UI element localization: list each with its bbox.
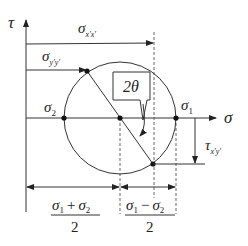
sigma-xx-label: σx'x' xyxy=(78,20,96,39)
svg-text:σ1−σ2: σ1−σ2 xyxy=(126,197,164,215)
svg-text:σ1+σ2: σ1+σ2 xyxy=(52,197,90,215)
svg-text:2: 2 xyxy=(71,219,79,235)
tau-xy-label: τx'y' xyxy=(205,137,221,156)
tau-axis-label: τ xyxy=(8,13,15,32)
center-formula: σ1+σ2 2 xyxy=(51,197,100,235)
mohr-circle-diagram: τ σ σx'x' σy'y' σ2 σ1 2θ τx'y' σ1+σ2 2 σ… xyxy=(0,0,248,246)
angle-callout-arrow xyxy=(140,104,144,136)
center-point xyxy=(117,115,122,120)
svg-text:2: 2 xyxy=(146,219,154,235)
sigma-axis-label: σ xyxy=(224,108,233,127)
sigma-xx-arrow xyxy=(26,43,153,44)
two-theta-label: 2θ xyxy=(123,78,139,95)
sigma-yy-label: σy'y' xyxy=(42,48,60,67)
sigma-1-label: σ1 xyxy=(181,97,193,116)
radius-formula: σ1−σ2 2 xyxy=(125,197,175,235)
sigma-1-point xyxy=(173,115,178,120)
sigma-2-point xyxy=(61,115,66,120)
sigma-2-label: σ2 xyxy=(44,99,56,118)
yy-stress-point xyxy=(84,68,89,73)
